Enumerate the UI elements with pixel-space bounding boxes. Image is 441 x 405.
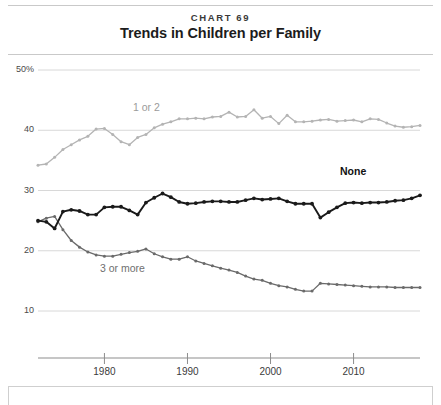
- data-point: [302, 202, 306, 206]
- data-point: [86, 135, 89, 138]
- data-point: [286, 114, 289, 117]
- data-point: [244, 275, 247, 278]
- data-point: [177, 200, 181, 204]
- data-point: [136, 213, 140, 217]
- data-point: [261, 279, 264, 282]
- data-point: [228, 269, 231, 272]
- data-point: [53, 156, 56, 159]
- data-point: [120, 140, 123, 143]
- data-point: [211, 115, 214, 118]
- data-point: [194, 259, 197, 262]
- data-point: [169, 258, 172, 261]
- data-point: [44, 220, 48, 224]
- data-point: [211, 264, 214, 267]
- series-line-1-or-2: [38, 110, 420, 165]
- data-point: [61, 228, 64, 231]
- data-point: [161, 255, 164, 258]
- data-point: [203, 117, 206, 120]
- x-axis-label-1990: 1990: [167, 366, 207, 377]
- data-point: [202, 200, 206, 204]
- data-point: [152, 196, 156, 200]
- x-axis-label-1980: 1980: [84, 366, 124, 377]
- data-point: [103, 255, 106, 258]
- data-point: [369, 117, 372, 120]
- data-point: [53, 227, 57, 231]
- chart-plot-area: [0, 0, 441, 405]
- data-point: [377, 201, 381, 205]
- data-point: [169, 195, 173, 199]
- data-point: [327, 210, 331, 214]
- data-point: [186, 202, 190, 206]
- y-axis-label-30: 30: [0, 185, 34, 195]
- data-point: [311, 290, 314, 293]
- y-axis-label-50%: 50%: [0, 64, 34, 74]
- data-point: [244, 198, 248, 202]
- data-point: [335, 120, 338, 123]
- data-point: [153, 126, 156, 129]
- y-axis-label-20: 20: [0, 245, 34, 255]
- data-point: [277, 122, 280, 125]
- data-point: [277, 196, 281, 200]
- data-point: [302, 120, 305, 123]
- bottom-frame: [8, 386, 433, 405]
- data-point: [95, 253, 98, 256]
- data-point: [186, 255, 189, 258]
- data-point: [53, 215, 56, 218]
- data-point: [86, 213, 90, 217]
- data-point: [302, 290, 305, 293]
- data-point: [186, 117, 189, 120]
- data-point: [244, 115, 247, 118]
- data-point: [111, 133, 114, 136]
- data-point: [219, 199, 223, 203]
- data-point: [294, 120, 297, 123]
- data-point: [352, 201, 356, 205]
- data-point: [327, 282, 330, 285]
- data-point: [161, 123, 164, 126]
- data-point: [70, 239, 73, 242]
- data-point: [120, 253, 123, 256]
- line-chart-svg: [0, 0, 441, 405]
- data-point: [318, 216, 322, 220]
- data-point: [236, 271, 239, 274]
- data-point: [119, 205, 123, 209]
- data-point: [161, 192, 165, 196]
- data-point: [128, 143, 131, 146]
- data-point: [402, 126, 405, 129]
- data-point: [36, 219, 40, 223]
- y-axis-label-10: 10: [0, 305, 34, 315]
- data-point: [352, 119, 355, 122]
- data-point: [153, 252, 156, 255]
- data-point: [169, 120, 172, 123]
- data-point: [78, 209, 82, 213]
- x-axis-label-2000: 2000: [251, 366, 291, 377]
- data-point: [219, 115, 222, 118]
- data-point: [344, 284, 347, 287]
- data-point: [319, 282, 322, 285]
- data-point: [37, 164, 40, 167]
- data-point: [360, 120, 363, 123]
- data-point: [385, 122, 388, 125]
- data-point: [410, 286, 413, 289]
- data-point: [111, 255, 114, 258]
- data-point: [111, 205, 115, 209]
- data-point: [269, 282, 272, 285]
- data-point: [219, 267, 222, 270]
- x-axis-label-2010: 2010: [334, 366, 374, 377]
- data-point: [344, 119, 347, 122]
- data-point: [360, 201, 364, 205]
- data-point: [203, 262, 206, 265]
- data-point: [70, 143, 73, 146]
- data-point: [128, 251, 131, 254]
- data-point: [78, 246, 81, 249]
- data-point: [144, 247, 147, 250]
- data-point: [252, 278, 255, 281]
- data-point: [127, 208, 131, 212]
- data-point: [210, 199, 214, 203]
- data-point: [327, 118, 330, 121]
- data-point: [178, 258, 181, 261]
- data-point: [335, 283, 338, 286]
- data-point: [178, 117, 181, 120]
- data-point: [410, 196, 414, 200]
- y-axis-label-40: 40: [0, 124, 34, 134]
- data-point: [144, 133, 147, 136]
